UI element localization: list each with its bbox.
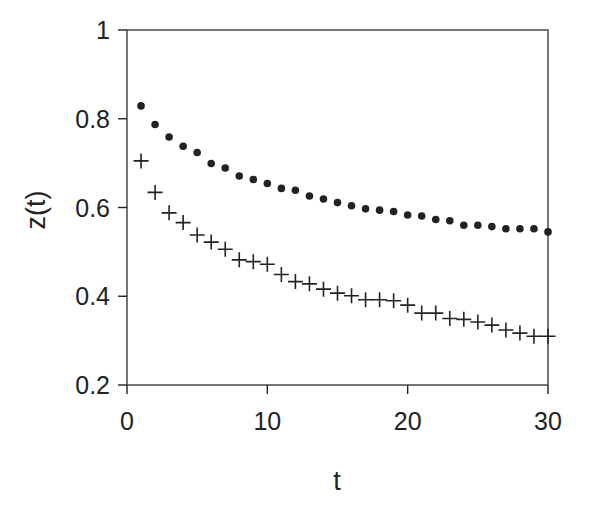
data-point-cross bbox=[541, 329, 556, 344]
data-point-cross bbox=[218, 242, 233, 257]
data-point-dot bbox=[151, 121, 159, 129]
y-tick-label: 0.8 bbox=[75, 105, 110, 133]
data-point-cross bbox=[498, 322, 513, 337]
data-point-dot bbox=[446, 217, 454, 225]
data-point-cross bbox=[428, 306, 443, 321]
data-point-dot bbox=[306, 192, 314, 200]
series-dots bbox=[137, 102, 552, 236]
data-point-dot bbox=[390, 208, 398, 216]
plot-frame bbox=[127, 30, 548, 385]
x-tick-label: 20 bbox=[394, 407, 422, 435]
data-point-cross bbox=[386, 293, 401, 308]
data-point-cross bbox=[344, 288, 359, 303]
data-point-cross bbox=[162, 205, 177, 220]
data-point-dot bbox=[193, 149, 201, 157]
data-point-cross bbox=[372, 292, 387, 307]
data-point-cross bbox=[330, 286, 345, 301]
data-point-dot bbox=[516, 225, 524, 233]
data-point-dot bbox=[250, 176, 258, 184]
data-point-dot bbox=[404, 211, 412, 219]
data-point-cross bbox=[442, 311, 457, 326]
data-point-dot bbox=[432, 216, 440, 224]
data-point-cross bbox=[512, 326, 527, 341]
x-tick-label: 30 bbox=[534, 407, 562, 435]
y-tick-label: 0.6 bbox=[75, 194, 110, 222]
y-tick-label: 0.4 bbox=[75, 282, 110, 310]
data-point-dot bbox=[207, 160, 215, 168]
data-point-dot bbox=[488, 223, 496, 231]
data-point-cross bbox=[316, 282, 331, 297]
y-tick-label: 0.2 bbox=[75, 371, 110, 399]
data-point-cross bbox=[526, 329, 541, 344]
data-point-cross bbox=[190, 228, 205, 243]
data-point-dot bbox=[502, 225, 510, 233]
data-point-cross bbox=[260, 257, 275, 272]
data-point-cross bbox=[148, 185, 163, 200]
series-crosses bbox=[134, 153, 556, 343]
scatter-chart: 0102030 0.20.40.60.81 t z(t) bbox=[0, 0, 592, 510]
data-point-cross bbox=[484, 318, 499, 333]
data-point-dot bbox=[460, 221, 468, 229]
y-axis-ticks: 0.20.40.60.81 bbox=[75, 16, 127, 399]
data-point-dot bbox=[474, 221, 482, 229]
data-point-cross bbox=[246, 254, 261, 269]
data-point-cross bbox=[456, 312, 471, 327]
data-point-dot bbox=[165, 133, 173, 141]
data-point-dot bbox=[376, 206, 384, 214]
data-point-dot bbox=[348, 202, 356, 210]
data-point-cross bbox=[204, 235, 219, 250]
data-point-cross bbox=[358, 292, 373, 307]
data-point-dot bbox=[264, 180, 272, 188]
data-point-dot bbox=[334, 199, 342, 207]
data-point-cross bbox=[232, 252, 247, 267]
y-tick-label: 1 bbox=[96, 16, 110, 44]
data-series bbox=[134, 102, 556, 344]
data-point-cross bbox=[288, 274, 303, 289]
data-point-cross bbox=[134, 153, 149, 168]
data-point-dot bbox=[530, 225, 538, 233]
data-point-cross bbox=[414, 306, 429, 321]
data-point-cross bbox=[470, 314, 485, 329]
data-point-dot bbox=[179, 142, 187, 150]
data-point-dot bbox=[235, 172, 243, 180]
data-point-dot bbox=[320, 195, 328, 203]
y-axis-label: z(t) bbox=[21, 191, 51, 230]
data-point-dot bbox=[544, 228, 552, 236]
x-axis-ticks: 0102030 bbox=[120, 385, 562, 435]
data-point-cross bbox=[274, 267, 289, 282]
data-point-dot bbox=[418, 212, 426, 220]
data-point-dot bbox=[292, 186, 300, 194]
plot-border bbox=[127, 30, 548, 385]
data-point-dot bbox=[278, 185, 286, 193]
data-point-dot bbox=[221, 164, 229, 172]
data-point-dot bbox=[362, 205, 370, 213]
x-tick-label: 10 bbox=[253, 407, 281, 435]
data-point-cross bbox=[176, 215, 191, 230]
x-axis-label: t bbox=[333, 466, 341, 496]
data-point-cross bbox=[302, 276, 317, 291]
data-point-cross bbox=[400, 298, 415, 313]
x-tick-label: 0 bbox=[120, 407, 134, 435]
data-point-dot bbox=[137, 102, 145, 110]
